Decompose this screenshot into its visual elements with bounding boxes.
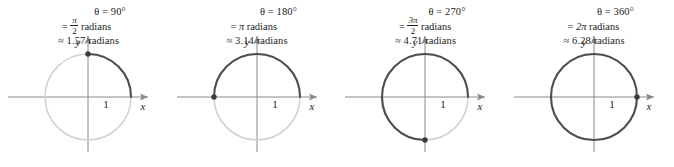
approx-value: 3.14 — [235, 35, 254, 46]
theta-exact-radians-line: = 3π 2 radians — [383, 18, 507, 34]
two-pi-symbol: 2π — [576, 21, 587, 32]
approx-symbol: ≈ — [564, 35, 570, 46]
x-axis-label: x — [140, 100, 146, 112]
theta-exact-radians-line: = π 2 radians — [46, 18, 170, 34]
terminal-point-270 — [422, 137, 427, 142]
terminal-point-360 — [634, 94, 639, 99]
terminal-point-180 — [211, 94, 216, 99]
theta-degrees-line: θ = 180° — [215, 6, 339, 17]
theta-approx-radians-line: ≈ 4.71 radians — [383, 35, 507, 46]
panel-360-degrees: 1 x y θ = 360° = 2π radians ≈ 6.28 radia… — [506, 0, 674, 167]
radians-unit-label: radians — [247, 21, 277, 32]
fraction-denominator: 2 — [410, 26, 417, 36]
approx-symbol: ≈ — [227, 35, 233, 46]
radians-unit-label: radians — [589, 21, 619, 32]
angle-label-block-270: θ = 270° = 3π 2 radians ≈ 4.71 radians — [383, 6, 507, 46]
theta-exact-radians-line: = 2π radians — [552, 18, 674, 34]
fraction-denominator: 2 — [71, 26, 78, 36]
equals-sign: = — [399, 21, 405, 32]
radius-label: 1 — [103, 98, 109, 110]
approx-value: 6.28 — [572, 35, 591, 46]
theta-exact-radians-line: = π radians — [215, 18, 339, 34]
approx-value: 1.57 — [67, 35, 86, 46]
radians-unit-label: radians — [81, 21, 111, 32]
radius-label: 1 — [609, 98, 615, 110]
radians-unit-label: radians — [421, 21, 451, 32]
fraction-pi-over-2: π 2 — [70, 16, 78, 36]
approx-units: radians — [257, 35, 288, 46]
panel-270-degrees: 1 x y θ = 270° = 3π 2 radians ≈ 4.71 rad… — [337, 0, 506, 167]
theta-degrees-line: θ = 360° — [552, 6, 674, 17]
approx-units: radians — [88, 35, 119, 46]
panel-90-degrees: 1 x y θ = 90° = π 2 radians ≈ 1.57 radia… — [0, 0, 169, 167]
panel-180-degrees: 1 x y θ = 180° = π radians ≈ 3.14 radian… — [169, 0, 338, 167]
unit-circle-radians-figure: 1 x y θ = 90° = π 2 radians ≈ 1.57 radia… — [0, 0, 674, 167]
theta-approx-radians-line: ≈ 1.57 radians — [46, 35, 170, 46]
radius-label: 1 — [272, 98, 278, 110]
x-axis-label: x — [308, 100, 314, 112]
equals-sign: = — [568, 21, 574, 32]
angle-label-block-360: θ = 360° = 2π radians ≈ 6.28 radians — [552, 6, 674, 46]
x-axis-label: x — [645, 100, 651, 112]
radius-label: 1 — [440, 98, 446, 110]
angle-label-block-180: θ = 180° = π radians ≈ 3.14 radians — [215, 6, 339, 46]
angle-label-block-90: θ = 90° = π 2 radians ≈ 1.57 radians — [46, 6, 170, 46]
theta-approx-radians-line: ≈ 6.28 radians — [552, 35, 674, 46]
theta-degrees-line: θ = 90° — [46, 6, 170, 17]
theta-degrees-line: θ = 270° — [383, 6, 507, 17]
equals-sign: = — [231, 21, 237, 32]
approx-value: 4.71 — [404, 35, 423, 46]
approx-units: radians — [425, 35, 456, 46]
fraction-numerator: π — [71, 16, 78, 26]
approx-units: radians — [594, 35, 625, 46]
equals-sign: = — [62, 21, 68, 32]
approx-symbol: ≈ — [58, 35, 64, 46]
x-axis-label: x — [477, 100, 483, 112]
terminal-point-90 — [85, 51, 90, 56]
fraction-numerator: 3π — [407, 16, 418, 26]
theta-approx-radians-line: ≈ 3.14 radians — [215, 35, 339, 46]
swept-arc-90 — [88, 54, 131, 97]
approx-symbol: ≈ — [395, 35, 401, 46]
pi-symbol: π — [239, 21, 244, 32]
fraction-3pi-over-2: 3π 2 — [407, 16, 418, 36]
